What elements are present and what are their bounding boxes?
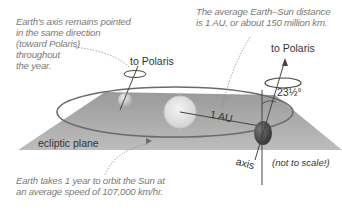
distance-note-line: The average Earth–Sun distance xyxy=(196,6,330,17)
not-to-scale-label: (not to scale!) xyxy=(272,157,330,168)
polaris-arrow-icon xyxy=(282,58,288,66)
to-polaris-right-label: to Polaris xyxy=(271,42,315,54)
axis-note-line: Earth's axis remains pointed xyxy=(16,16,131,27)
ecliptic-plane-label: ecliptic plane xyxy=(38,137,99,149)
axis-note-line: in the same direction xyxy=(16,27,131,38)
axis-note-line: the year. xyxy=(16,60,131,71)
orbit-note: Earth takes 1 year to orbit the Sun at a… xyxy=(16,175,165,197)
orbit-note-line: an average speed of 107,000 km/hr. xyxy=(16,186,165,197)
distance-note-line: is 1 AU, or about 150 million km. xyxy=(196,17,330,28)
orbit-note-line: Earth takes 1 year to orbit the Sun at xyxy=(16,175,165,186)
axis-note-line: throughout xyxy=(16,49,131,60)
axis-note-line: (toward Polaris) xyxy=(16,38,131,49)
diagram-canvas: Earth's axis remains pointed in the same… xyxy=(0,0,342,211)
earth-left xyxy=(118,93,132,107)
distance-note: The average Earth–Sun distance is 1 AU, … xyxy=(196,6,330,28)
axis-note: Earth's axis remains pointed in the same… xyxy=(16,16,131,71)
to-polaris-left-label: to Polaris xyxy=(130,55,174,67)
tilt-angle-label: 23½° xyxy=(277,86,302,98)
